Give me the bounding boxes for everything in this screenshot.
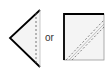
or-label: or: [45, 32, 54, 43]
folded-triangle: [10, 10, 40, 67]
folded-square: [64, 14, 104, 60]
fold-diagram: [0, 0, 109, 70]
